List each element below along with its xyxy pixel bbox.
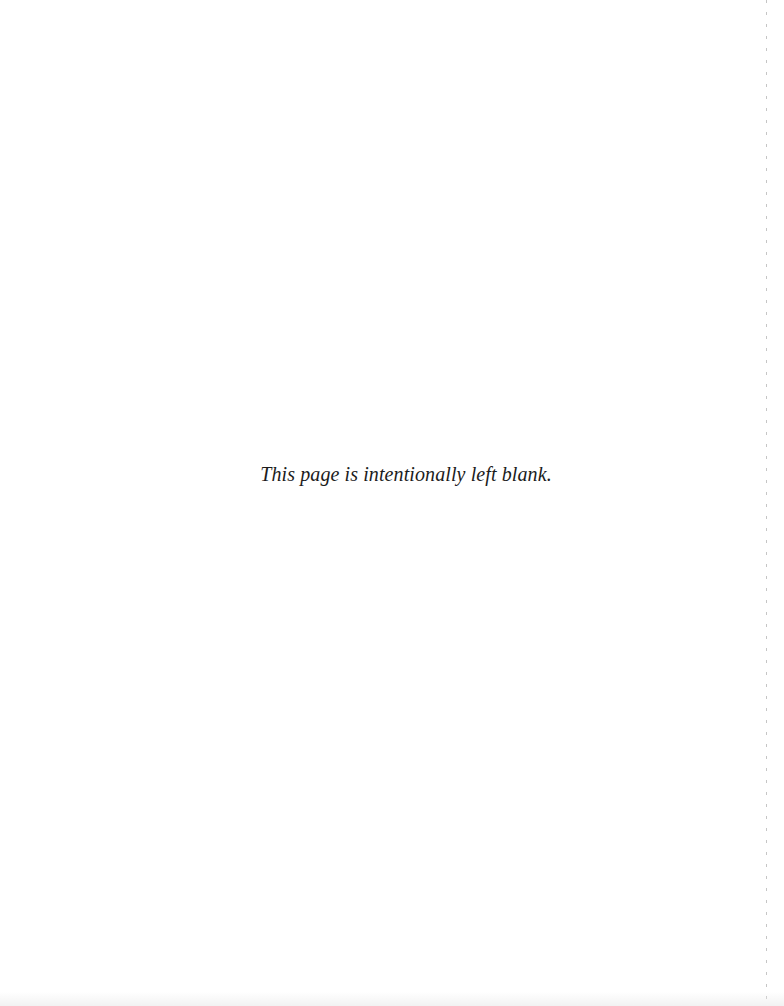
document-page: This page is intentionally left blank. — [0, 0, 784, 1006]
blank-page-notice: This page is intentionally left blank. — [0, 462, 784, 486]
scan-bottom-shade — [0, 992, 784, 1006]
scan-edge-line — [766, 0, 767, 1006]
